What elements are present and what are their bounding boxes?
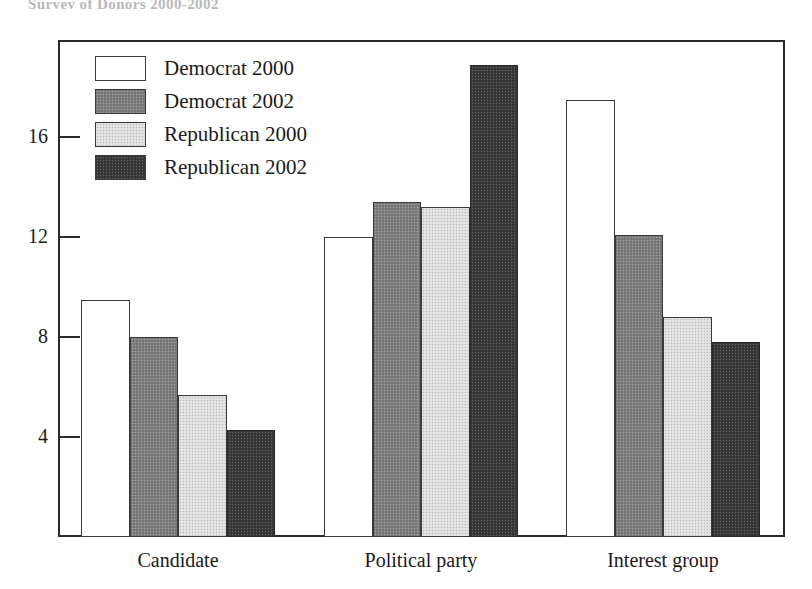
legend-label: Democrat 2000 <box>164 58 294 79</box>
chart-legend: Democrat 2000Democrat 2002Republican 200… <box>95 52 425 184</box>
legend-item: Democrat 2000 <box>95 52 425 85</box>
bar <box>227 430 276 538</box>
bar <box>178 395 227 538</box>
bar <box>421 207 470 537</box>
y-axis-label: 4 <box>0 426 48 446</box>
legend-label: Republican 2000 <box>164 124 307 145</box>
y-axis-label: 8 <box>0 326 48 346</box>
bar <box>615 235 664 538</box>
legend-swatch-icon <box>95 56 146 81</box>
x-axis-category-label: Candidate <box>41 549 315 571</box>
bar <box>712 342 761 537</box>
bar <box>566 100 615 538</box>
legend-item: Republican 2002 <box>95 151 425 184</box>
y-axis-label: 12 <box>0 226 48 246</box>
x-axis-category-label: Interest group <box>526 549 800 571</box>
bar <box>324 237 373 537</box>
legend-swatch-icon <box>95 122 146 147</box>
legend-label: Republican 2002 <box>164 157 307 178</box>
legend-label: Democrat 2002 <box>164 91 294 112</box>
bar <box>373 202 422 537</box>
bar-group <box>566 42 760 537</box>
bar <box>81 300 130 538</box>
legend-swatch-icon <box>95 89 146 114</box>
legend-swatch-icon <box>95 155 146 180</box>
y-axis-label: 16 <box>0 126 48 146</box>
cropped-title-remnant: Survey of Donors 2000-2002 <box>28 0 358 9</box>
x-axis-category-label: Political party <box>284 549 558 571</box>
bar <box>130 337 179 537</box>
bar <box>663 317 712 537</box>
legend-item: Republican 2000 <box>95 118 425 151</box>
bar <box>470 65 519 538</box>
legend-item: Democrat 2002 <box>95 85 425 118</box>
